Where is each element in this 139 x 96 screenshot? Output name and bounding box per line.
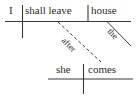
sentence-diagram: I shall leave house the after she comes (0, 0, 139, 96)
main-subject-label: I (9, 5, 13, 16)
subordinate-verb-label: comes (88, 64, 116, 75)
subordinate-subject-label: she (56, 64, 71, 75)
direct-object-label: house (91, 5, 117, 16)
main-verb-label: shall leave (25, 5, 72, 16)
